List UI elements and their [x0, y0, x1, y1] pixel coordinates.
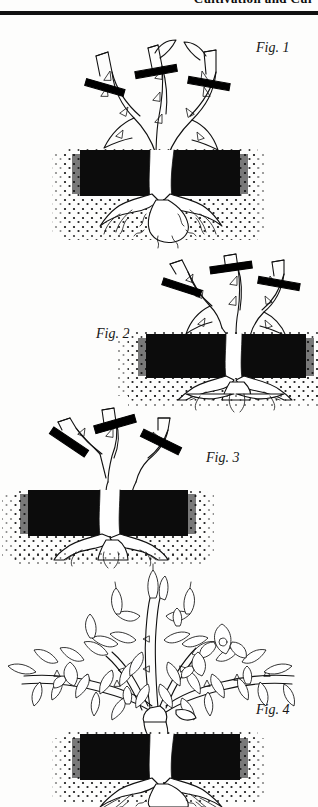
fig4-leaves — [8, 611, 295, 720]
cut-mark — [49, 427, 88, 457]
fig4-crown — [143, 706, 196, 736]
figure-4-label: Fig. 4 — [256, 702, 289, 718]
figure-4-illustration — [0, 556, 318, 807]
running-head: Cultivation and Cul — [0, 0, 318, 7]
figure-3-label: Fig. 3 — [206, 450, 239, 466]
cut-mark — [140, 429, 181, 455]
figure-3: Fig. 3 — [0, 400, 318, 560]
book-page: Cultivation and Cul — [0, 0, 318, 807]
header-rule — [0, 11, 318, 15]
cut-mark — [188, 76, 231, 90]
figure-1: Fig. 1 — [0, 18, 318, 238]
cut-mark — [210, 261, 253, 274]
figure-2: Fig. 2 — [0, 250, 318, 400]
fig3-cut-marks — [49, 414, 181, 457]
figure-2-label: Fig. 2 — [96, 326, 129, 342]
figure-2-illustration — [0, 250, 318, 400]
figure-4: Fig. 4 — [0, 556, 318, 807]
cut-mark — [85, 79, 125, 97]
figure-1-label: Fig. 1 — [256, 40, 289, 56]
figure-3-illustration — [0, 400, 318, 560]
